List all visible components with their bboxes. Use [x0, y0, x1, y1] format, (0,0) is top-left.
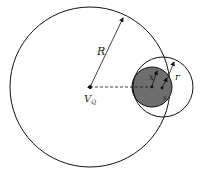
label-s: s [163, 94, 167, 102]
label-V: VQ [84, 93, 96, 105]
small-center-point [151, 86, 154, 89]
label-r: r [175, 71, 181, 82]
radius-r-arrow [168, 62, 174, 77]
center-point [88, 85, 92, 89]
radius-R-arrow [91, 18, 123, 85]
label-R: R [96, 45, 105, 58]
circles-diagram: R VQ x r s [0, 0, 200, 170]
label-x: x [149, 72, 154, 82]
s-point [161, 87, 164, 90]
